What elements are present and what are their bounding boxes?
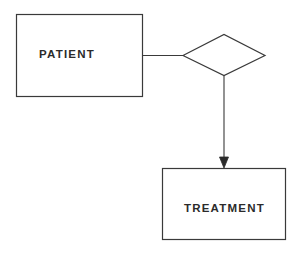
relationship-diamond xyxy=(183,35,265,76)
entity-patient-label: PATIENT xyxy=(39,48,95,60)
er-diagram: PATIENT TREATMENT xyxy=(0,0,303,257)
arrowhead-icon xyxy=(220,157,229,168)
entity-patient: PATIENT xyxy=(17,15,143,97)
entity-treatment-label: TREATMENT xyxy=(184,202,265,214)
entity-treatment: TREATMENT xyxy=(163,169,286,240)
